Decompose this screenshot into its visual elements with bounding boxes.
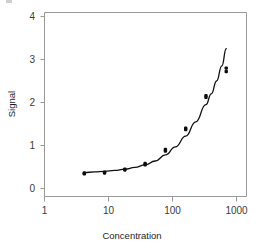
- data-point: [83, 172, 86, 175]
- data-point-group: [83, 66, 228, 175]
- top-edge-artifact: [6, 0, 12, 3]
- y-axis-tick-labels: 0 1 2 3 4: [29, 11, 35, 194]
- chart-page: 0 1 2 3 4 1 10 100 1000 Concentration Si…: [0, 0, 264, 247]
- x-axis-ticks: [45, 197, 237, 202]
- y-tick-label-2: 2: [29, 97, 35, 108]
- data-point: [103, 171, 106, 174]
- data-point: [225, 66, 228, 69]
- y-tick-label-0: 0: [29, 183, 35, 194]
- calibration-curve-chart: 0 1 2 3 4 1 10 100 1000 Concentration Si…: [0, 0, 264, 247]
- x-tick-label-1000: 1000: [225, 205, 248, 216]
- x-axis-tick-labels: 1 10 100 1000: [42, 205, 248, 216]
- data-point: [225, 70, 228, 73]
- fitted-curve: [84, 49, 226, 173]
- x-tick-label-10: 10: [103, 205, 115, 216]
- x-axis-title: Concentration: [102, 230, 161, 241]
- y-tick-label-4: 4: [29, 11, 35, 22]
- data-point: [204, 96, 207, 99]
- y-tick-label-3: 3: [29, 54, 35, 65]
- x-tick-label-100: 100: [164, 205, 181, 216]
- y-axis-title: Signal: [6, 91, 17, 117]
- data-point: [184, 128, 187, 131]
- y-axis-ticks: [41, 17, 45, 189]
- data-point: [143, 163, 146, 166]
- y-tick-label-1: 1: [29, 140, 35, 151]
- data-point: [164, 149, 167, 152]
- plot-frame: [45, 13, 247, 197]
- data-point: [123, 168, 126, 171]
- x-tick-label-1: 1: [42, 205, 48, 216]
